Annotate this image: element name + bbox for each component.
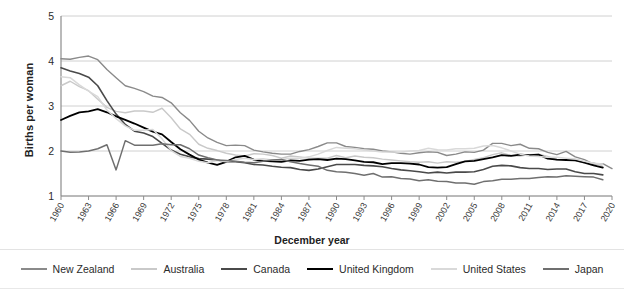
svg-text:1999: 1999 [406,201,425,223]
svg-text:2014: 2014 [543,201,562,223]
svg-text:1996: 1996 [378,201,397,223]
series-lines [61,56,612,184]
svg-text:5: 5 [48,10,54,22]
svg-text:3: 3 [48,100,54,112]
legend-label: Canada [253,263,290,275]
svg-text:1990: 1990 [323,201,342,223]
legend-label: Australia [163,263,204,275]
y-tick-labels: 12345 [48,10,54,202]
svg-text:2005: 2005 [461,201,480,223]
svg-text:1972: 1972 [158,201,177,223]
svg-text:2: 2 [48,145,54,157]
plot-area: 12345 1960196319661969197219751978198119… [0,0,624,250]
svg-text:2017: 2017 [571,201,590,223]
legend-item-united-kingdom[interactable]: United Kingdom [307,263,414,275]
legend-item-australia[interactable]: Australia [131,263,204,275]
svg-text:1981: 1981 [240,201,259,223]
legend-item-japan[interactable]: Japan [543,263,604,275]
svg-text:1984: 1984 [268,201,287,223]
chart-legend: New ZealandAustraliaCanadaUnited Kingdom… [0,258,624,280]
y-axis-title: Births per woman [23,15,35,205]
fertility-rate-line-chart: 12345 1960196319661969197219751978198119… [0,0,624,297]
svg-text:1: 1 [48,190,54,202]
svg-text:1993: 1993 [351,201,370,223]
legend-swatch-icon [431,268,457,270]
svg-text:2008: 2008 [488,201,507,223]
svg-text:4: 4 [48,55,54,67]
legend-label: New Zealand [53,263,115,275]
svg-text:2020: 2020 [599,201,618,223]
svg-text:1975: 1975 [185,201,204,223]
svg-text:1966: 1966 [103,201,122,223]
x-axis-title: December year [0,234,624,246]
svg-text:2011: 2011 [516,201,534,223]
legend-swatch-icon [221,268,247,270]
x-tick-labels: 1960196319661969197219751978198119841987… [48,201,618,223]
svg-text:1987: 1987 [296,201,315,223]
legend-label: United Kingdom [339,263,414,275]
svg-text:1969: 1969 [130,201,149,223]
legend-separator-top [0,249,624,250]
x-tick-marks [61,196,612,200]
svg-text:1978: 1978 [213,201,232,223]
legend-item-canada[interactable]: Canada [221,263,290,275]
legend-item-new-zealand[interactable]: New Zealand [21,263,115,275]
legend-swatch-icon [543,268,569,270]
svg-text:2002: 2002 [433,201,452,223]
svg-text:1960: 1960 [48,201,67,223]
legend-swatch-icon [21,268,47,270]
legend-swatch-icon [307,268,333,270]
legend-label: Japan [575,263,604,275]
legend-swatch-icon [131,268,157,270]
legend-item-united-states[interactable]: United States [431,263,526,275]
legend-separator-bottom [0,288,624,289]
legend-label: United States [463,263,526,275]
svg-text:1963: 1963 [75,201,94,223]
chart-svg: 12345 1960196319661969197219751978198119… [0,0,624,250]
